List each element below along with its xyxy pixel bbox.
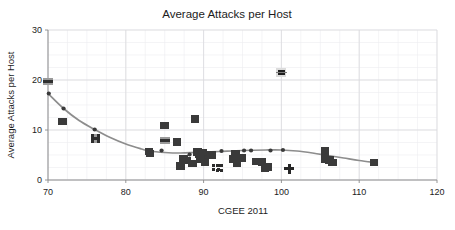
data-point — [159, 148, 163, 152]
data-point — [321, 147, 330, 154]
y-tick-label: 10 — [32, 125, 42, 135]
x-tick-label: 70 — [43, 187, 53, 197]
y-axis-label: Average Attacks per Host — [5, 51, 16, 158]
y-tick-label: 20 — [32, 75, 42, 85]
data-point — [146, 150, 155, 157]
data-point — [242, 148, 246, 152]
data-point — [201, 158, 210, 165]
data-point — [370, 159, 379, 166]
data-point — [191, 115, 200, 122]
chart-figure: Average Attacks per Host 708090100110120… — [0, 0, 455, 230]
x-tick-label: 90 — [199, 187, 209, 197]
data-point — [160, 122, 169, 129]
x-tick-label: 120 — [429, 187, 444, 197]
data-point — [47, 91, 51, 95]
x-tick-label: 110 — [352, 187, 366, 197]
data-point — [268, 148, 272, 152]
data-point — [61, 106, 65, 110]
x-axis-label: CGEE 2011 — [218, 205, 268, 216]
data-point — [58, 118, 67, 125]
chart-background — [0, 0, 455, 230]
data-point — [264, 163, 273, 170]
data-point — [187, 152, 191, 156]
data-point — [219, 149, 223, 153]
data-point — [91, 134, 100, 142]
data-point — [188, 160, 197, 167]
data-point — [237, 154, 246, 161]
chart-title: Average Attacks per Host — [162, 8, 292, 20]
data-point — [276, 68, 287, 77]
data-point — [328, 159, 337, 166]
y-tick-label: 30 — [32, 25, 42, 35]
x-tick-label: 80 — [121, 187, 131, 197]
data-point — [173, 138, 182, 145]
scatter-plot-canvas: Average Attacks per Host 708090100110120… — [0, 0, 455, 230]
data-point — [199, 149, 208, 156]
data-point — [43, 78, 53, 84]
data-point — [93, 127, 97, 131]
data-point — [207, 151, 216, 158]
data-point — [281, 148, 285, 152]
y-tick-label: 0 — [37, 175, 42, 185]
data-point — [249, 148, 253, 152]
x-tick-label: 100 — [274, 187, 289, 197]
data-point — [160, 137, 170, 143]
